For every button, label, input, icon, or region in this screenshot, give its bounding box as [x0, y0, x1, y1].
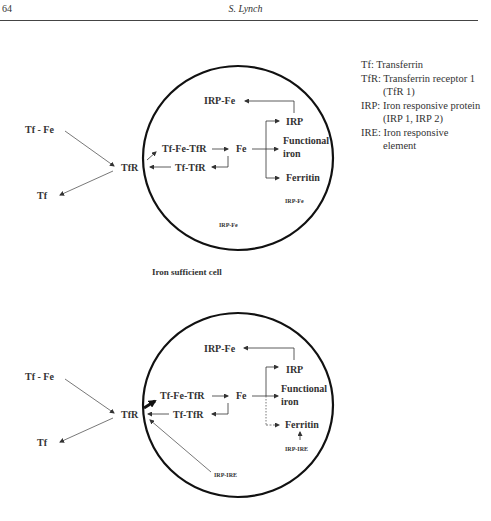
label-tf-tfr: Tf-TfR: [175, 162, 206, 173]
label-iron: iron: [283, 148, 301, 159]
label-functional: Functional: [283, 135, 329, 146]
arrow-fe-to-tftfr: [212, 156, 228, 167]
caption-iron-sufficient-cell: Iron sufficient cell: [152, 267, 222, 277]
label-tf-fe: Tf - Fe: [25, 124, 54, 135]
arrow-tfr-to-tf: [60, 418, 113, 442]
label-tf: Tf: [37, 437, 48, 448]
label-tf-fe-tfr: Tf-Fe-TfR: [160, 390, 205, 401]
arrow-irpire-to-tfr: [150, 420, 211, 472]
arrow-branch-to-irp: [266, 121, 279, 178]
arrow-fe-to-tftfr: [212, 403, 228, 414]
label-irp-fe-small: IRP-Fe: [219, 222, 238, 228]
label-fe: Fe: [236, 143, 247, 154]
label-irp: IRP: [286, 364, 303, 375]
arrow-tfr-to-tffetfr-thick: [144, 401, 155, 408]
arrow-tffe-to-tfr: [65, 131, 114, 166]
diagram-iron-deficient: Tf - Fe Tf TfR Tf-Fe-TfR Tf-TfR Fe IRP F…: [25, 313, 333, 497]
label-irp-ire: IRP-IRE: [214, 472, 237, 478]
arrow-irp-to-irpfe: [245, 101, 294, 113]
label-tf: Tf: [37, 190, 48, 201]
arrow-irp-to-irpfe: [244, 348, 294, 360]
arrow-branch-to-irp: [266, 367, 278, 396]
label-tf-fe-tfr: Tf-Fe-TfR: [162, 143, 207, 154]
arrow-tfr-to-tffetfr: [147, 152, 156, 160]
label-tfr: TfR: [121, 162, 139, 173]
label-ferritin: Ferritin: [285, 419, 319, 430]
label-ferritin: Ferritin: [286, 172, 320, 183]
label-irp-fe-small: IRP-Fe: [285, 198, 304, 204]
iron-regulation-diagram: Tf - Fe Tf TfR Tf-Fe-TfR Tf-TfR Fe IRP F…: [0, 0, 491, 521]
label-irp: IRP: [286, 116, 303, 127]
arrow-tffe-to-tfr: [65, 379, 114, 413]
label-fe: Fe: [236, 390, 247, 401]
label-iron: iron: [281, 396, 299, 407]
label-functional: Functional: [281, 383, 327, 394]
label-irp-fe: IRP-Fe: [204, 343, 236, 354]
diagram-iron-sufficient: Tf - Fe Tf TfR Tf-Fe-TfR Tf-TfR Fe IRP F…: [25, 66, 333, 277]
label-irp-ire: IRP-IRE: [285, 446, 308, 452]
cell-membrane: [143, 313, 333, 497]
cell-membrane: [143, 66, 333, 250]
label-tf-fe: Tf - Fe: [25, 371, 54, 382]
arrow-tfr-to-tf: [60, 171, 113, 195]
label-tfr: TfR: [121, 409, 139, 420]
label-tf-tfr: Tf-TfR: [173, 409, 204, 420]
label-irp-fe: IRP-Fe: [204, 95, 236, 106]
